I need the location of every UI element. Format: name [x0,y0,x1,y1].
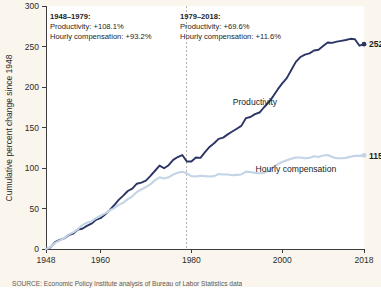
endpoint-label-productivity: 252.9% [369,39,381,49]
x-tick-label: 1960 [91,255,110,265]
series-group: 252.9%Productivity115.6%Hourly compensat… [46,39,381,249]
annotation-left-compensation: Hourly compensation: +93.2% [50,32,152,42]
y-tick-label: 0 [34,244,39,254]
y-axis-group: 050100150200250300 [25,1,46,254]
annotation-left-period: 1948–1979: [50,12,152,22]
annotation-right-productivity: Productivity: +69.6% [180,22,281,32]
y-tick-label: 100 [25,163,39,173]
annotation-period-1979-2018: 1979–2018: Productivity: +69.6% Hourly c… [180,12,281,43]
endpoint-dot-compensation [362,153,367,158]
y-tick-label: 50 [30,204,40,214]
annotation-right-period: 1979–2018: [180,12,281,22]
y-axis-title: Cumulative percent change since 1948 [4,54,14,201]
annotation-left-productivity: Productivity: +108.1% [50,22,152,32]
y-tick-label: 200 [25,82,39,92]
series-line-productivity [46,39,364,249]
endpoint-label-compensation: 115.6% [369,151,381,161]
source-note: SOURCE: Economic Policy Institute analys… [12,280,242,288]
x-tick-label: 2018 [355,255,374,265]
annotation-period-1948-1979: 1948–1979: Productivity: +108.1% Hourly … [50,12,152,43]
x-axis-group: 19481960198020002018 [37,249,374,265]
y-tick-label: 250 [25,42,39,52]
x-tick-label: 1948 [37,255,56,265]
x-tick-label: 2000 [273,255,292,265]
y-tick-label: 150 [25,123,39,133]
y-tick-label: 300 [25,1,39,11]
annotation-right-compensation: Hourly compensation: +11.6% [180,32,281,42]
endpoint-dot-productivity [362,42,367,47]
series-label-compensation: Hourly compensation [255,164,336,174]
x-tick-label: 1980 [182,255,201,265]
series-label-productivity: Productivity [233,97,278,107]
